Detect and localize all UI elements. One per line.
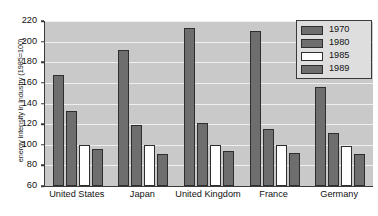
bar [79,145,90,186]
bar [157,154,168,186]
legend-swatch [301,65,323,74]
bar [118,50,129,186]
x-axis-tick-label: United States [49,189,104,199]
bar [210,145,221,186]
bar [341,146,352,186]
y-axis-tick-label: 180 [22,58,37,67]
bar-group [111,21,177,186]
x-axis-tick-label: United Kingdom [175,189,240,199]
legend-label: 1985 [329,51,349,60]
bar [354,154,365,186]
y-axis-tick-label: 120 [22,120,37,129]
bar [223,151,234,186]
bar [250,31,261,186]
legend-item: 1985 [301,50,367,62]
bar [184,28,195,186]
legend-swatch [301,26,323,35]
legend-swatch [301,52,323,61]
bar [92,149,103,186]
bar [328,133,339,186]
y-axis-tick-label: 80 [27,161,37,170]
legend-swatch [301,39,323,48]
x-axis-tick-label: Germany [320,189,358,199]
bar [315,87,326,186]
bar [144,145,155,186]
legend-label: 1970 [329,25,349,34]
legend-label: 1980 [329,38,349,47]
x-axis-tick-label: France [259,189,288,199]
bar [276,145,287,186]
y-axis-tick-label: 160 [22,78,37,87]
bar-group [176,21,242,186]
y-axis-tick-label: 100 [22,140,37,149]
y-axis-tick-labels: 6080100120140160180200220 [0,0,44,216]
bar [197,123,208,186]
bar [131,125,142,186]
legend-item: 1989 [301,63,367,75]
legend-label: 1989 [329,64,349,73]
x-axis-tick-labels: United StatesJapanUnited KingdomFranceGe… [44,189,372,211]
bar-chart-figure: energy intensity in industry (1985=100) … [0,0,378,216]
y-axis-tick-label: 60 [27,181,37,190]
y-axis-tick-label: 140 [22,99,37,108]
y-axis-tick-label: 220 [22,16,37,25]
bar [289,153,300,186]
bar [53,75,64,186]
chart-legend: 1970198019851989 [296,20,372,79]
bar [66,111,77,186]
legend-item: 1970 [301,24,367,36]
y-axis-tick-label: 200 [22,37,37,46]
x-axis-tick-label: Japan [130,189,155,199]
legend-item: 1980 [301,37,367,49]
bar-group [45,21,111,186]
bar [263,129,274,186]
